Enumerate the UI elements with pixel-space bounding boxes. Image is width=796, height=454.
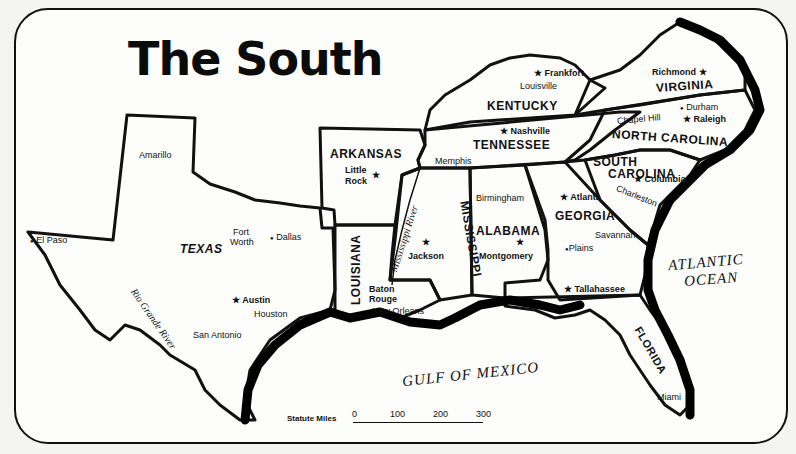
city-el-paso: ● El Paso [30,236,67,245]
city-memphis: Memphis [435,157,472,166]
state-label-virginia: VIRGINIA [656,78,714,94]
capital-raleigh: ★ Raleigh [683,115,726,124]
capital-star-icon: ★ [534,68,542,78]
state-label-tennessee: TENNESSEE [473,139,550,151]
capital-star-icon: ★ [232,295,240,305]
capital-austin: ★ Austin [232,296,270,305]
capital-tallahassee: ★ Tallahassee [564,285,625,294]
capital-star-icon: ★ [372,171,380,180]
capital-baton-rouge-line2: Rouge [369,295,397,304]
capital-star-icon: ★ [683,114,691,124]
city-durham: ● Durham [680,103,718,112]
capital-nashville: ★ Nashville [500,127,550,136]
capital-star-icon: ★ [516,238,524,247]
capital-star-icon: ★ [500,126,508,136]
city-plains: ●Plains [565,244,593,253]
scale-tick-0: 0 [352,410,357,419]
capital-star-icon: ★ [634,174,642,184]
scale-tick-200: 200 [433,410,448,419]
capital-montgomery: Montgomery [479,252,533,261]
scale-label: Statute Miles [287,415,336,423]
city-san-antonio: San Antonio [193,331,242,340]
city-fort-worth-line2: Worth [230,238,254,247]
city-dallas: ● Dallas [270,233,301,242]
capital-columbia: ★ Columbia [634,175,686,184]
capital-star-icon: ★ [564,284,572,294]
capital-atlanta: ★ Atlanta [560,193,601,202]
city-fort-worth-line1: Fort [233,228,249,237]
scale-bar [353,422,483,423]
state-label-alabama: ALABAMA [476,225,540,237]
city-amarillo: Amarillo [139,151,172,160]
capital-baton-rouge-line1: Baton [369,285,395,294]
city-savannah: Savannah [595,231,636,240]
capital-little-rock-line2: Rock [345,177,367,186]
city-birmingham: Birmingham [476,194,524,203]
capital-frankfort: ★ Frankfort [534,69,584,78]
capital-star-icon: ★ [699,67,707,77]
texas-outline [28,115,335,420]
state-label-georgia: GEORGIA [555,210,615,222]
capital-jackson: Jackson [408,252,444,261]
capital-star-icon: ★ [422,238,430,247]
city-houston: Houston [254,310,288,319]
capital-richmond: Richmond ★ [652,68,707,77]
city-new-orleans: New Orleans [372,307,424,316]
state-label-kentucky: KENTUCKY [487,100,558,112]
state-label-texas: TEXAS [180,243,223,255]
scale-tick-100: 100 [390,410,405,419]
city-louisville: Louisville [520,82,557,91]
state-label-louisiana: LOUISIANA [350,235,362,306]
state-label-arkansas: ARKANSAS [330,148,402,160]
capital-little-rock-line1: Little [345,166,367,175]
kentucky-outline [425,55,605,130]
capital-star-icon: ★ [560,192,568,202]
scale-tick-300: 300 [476,410,491,419]
city-miami: Miami [657,393,681,402]
